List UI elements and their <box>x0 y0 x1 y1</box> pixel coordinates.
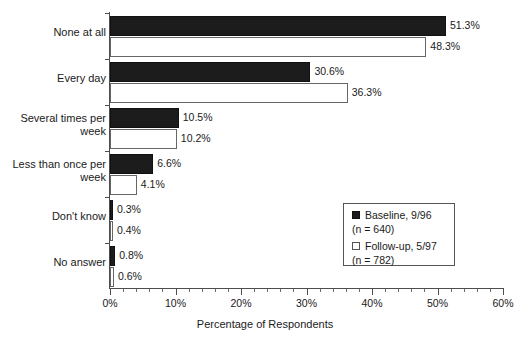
bar-baseline <box>110 16 446 36</box>
x-tick-label: 0% <box>102 297 117 309</box>
legend-swatch-followup-icon <box>352 242 360 250</box>
x-tick-major <box>372 289 373 295</box>
x-tick-minor <box>123 289 124 292</box>
bar-followup <box>110 175 137 195</box>
bar-value-label: 48.3% <box>430 40 460 52</box>
bar-baseline <box>110 62 310 82</box>
category-label: Less than once per week <box>12 158 106 184</box>
x-tick-minor <box>149 289 150 292</box>
x-tick-minor <box>320 289 321 292</box>
x-tick-minor <box>464 289 465 292</box>
bar-value-label: 4.1% <box>141 178 165 190</box>
x-tick-label: 10% <box>165 297 186 309</box>
x-tick-major <box>438 289 439 295</box>
x-tick-minor <box>411 289 412 292</box>
x-tick-label: 60% <box>492 297 513 309</box>
x-tick-major <box>110 289 111 295</box>
x-tick-minor <box>385 289 386 292</box>
x-tick-minor <box>451 289 452 292</box>
bar-followup <box>110 129 177 149</box>
category-label: None at all <box>53 26 106 39</box>
bar-value-label: 10.5% <box>183 111 213 123</box>
x-tick-minor <box>189 289 190 292</box>
bar-value-label: 36.3% <box>352 86 382 98</box>
x-axis-title: Percentage of Respondents <box>0 318 530 330</box>
x-tick-major <box>241 289 242 295</box>
legend-entry-followup: Follow-up, 5/97 <box>352 240 437 252</box>
bar-followup <box>110 221 113 241</box>
bar-baseline <box>110 246 115 266</box>
x-tick-label: 50% <box>427 297 448 309</box>
legend-label-baseline: Baseline, 9/96 <box>365 209 432 221</box>
x-tick-minor <box>490 289 491 292</box>
category-label: No answer <box>53 256 106 269</box>
x-tick-minor <box>333 289 334 292</box>
x-tick-minor <box>202 289 203 292</box>
bar-baseline <box>110 154 153 174</box>
legend: Baseline, 9/96 (n = 640) Follow-up, 5/97… <box>343 203 455 266</box>
x-tick-minor <box>215 289 216 292</box>
bar-value-label: 6.6% <box>157 157 181 169</box>
y-tick <box>105 151 110 152</box>
x-tick-label: 30% <box>296 297 317 309</box>
category-label: Several times per week <box>20 112 106 138</box>
legend-n-followup-text: (n = 782) <box>352 254 394 266</box>
x-tick-major <box>307 289 308 295</box>
legend-n-baseline-text: (n = 640) <box>352 223 394 235</box>
x-tick-label: 40% <box>361 297 382 309</box>
x-tick-minor <box>477 289 478 292</box>
bar-value-label: 0.8% <box>119 249 143 261</box>
x-tick-major <box>176 289 177 295</box>
x-tick-minor <box>398 289 399 292</box>
legend-n-baseline: (n = 640) <box>352 223 394 235</box>
x-tick-major <box>503 289 504 295</box>
bar-value-label: 0.3% <box>117 203 141 215</box>
y-tick <box>105 13 110 14</box>
y-tick <box>105 243 110 244</box>
x-tick-minor <box>346 289 347 292</box>
x-tick-minor <box>228 289 229 292</box>
bar-chart: 0%10%20%30%40%50%60% None at allEvery da… <box>0 0 530 342</box>
x-tick-minor <box>267 289 268 292</box>
legend-entry-baseline: Baseline, 9/96 <box>352 209 432 221</box>
bar-baseline <box>110 108 179 128</box>
x-tick-minor <box>280 289 281 292</box>
bar-value-label: 0.4% <box>117 224 141 236</box>
legend-n-followup: (n = 782) <box>352 254 394 266</box>
y-tick <box>105 59 110 60</box>
bar-followup <box>110 267 114 287</box>
legend-label-followup: Follow-up, 5/97 <box>365 240 437 252</box>
x-tick-label: 20% <box>230 297 251 309</box>
y-tick <box>105 197 110 198</box>
x-tick-minor <box>254 289 255 292</box>
bar-baseline <box>110 200 113 220</box>
bar-followup <box>110 37 426 57</box>
bar-value-label: 30.6% <box>314 65 344 77</box>
y-tick <box>105 105 110 106</box>
bar-value-label: 10.2% <box>181 132 211 144</box>
bar-value-label: 51.3% <box>450 19 480 31</box>
legend-swatch-baseline-icon <box>352 211 360 219</box>
bar-value-label: 0.6% <box>118 270 142 282</box>
x-tick-minor <box>293 289 294 292</box>
x-tick-minor <box>359 289 360 292</box>
category-label: Every day <box>57 72 106 85</box>
x-tick-minor <box>136 289 137 292</box>
x-tick-minor <box>162 289 163 292</box>
x-tick-minor <box>424 289 425 292</box>
category-label: Don't know <box>52 210 106 223</box>
bar-followup <box>110 83 348 103</box>
